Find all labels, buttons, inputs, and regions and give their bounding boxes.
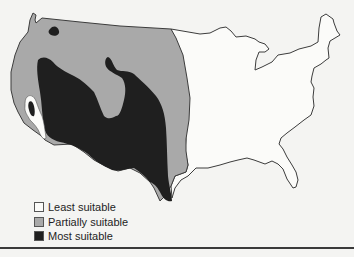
legend-item-most-suitable: Most suitable: [34, 229, 128, 244]
caption-divider: [0, 247, 354, 249]
swatch-most-suitable: [34, 231, 44, 241]
swatch-least-suitable: [34, 202, 44, 212]
legend-label: Most suitable: [48, 230, 113, 242]
legend-label: Partially suitable: [48, 216, 128, 228]
legend-label: Least suitable: [48, 201, 116, 213]
swatch-partially-suitable: [34, 217, 44, 227]
figure-caption-cutoff: [6, 250, 354, 257]
legend-item-least-suitable: Least suitable: [34, 200, 128, 215]
region-least-suitable: [171, 14, 340, 198]
map-legend: Least suitable Partially suitable Most s…: [34, 200, 128, 244]
legend-item-partially-suitable: Partially suitable: [34, 215, 128, 230]
